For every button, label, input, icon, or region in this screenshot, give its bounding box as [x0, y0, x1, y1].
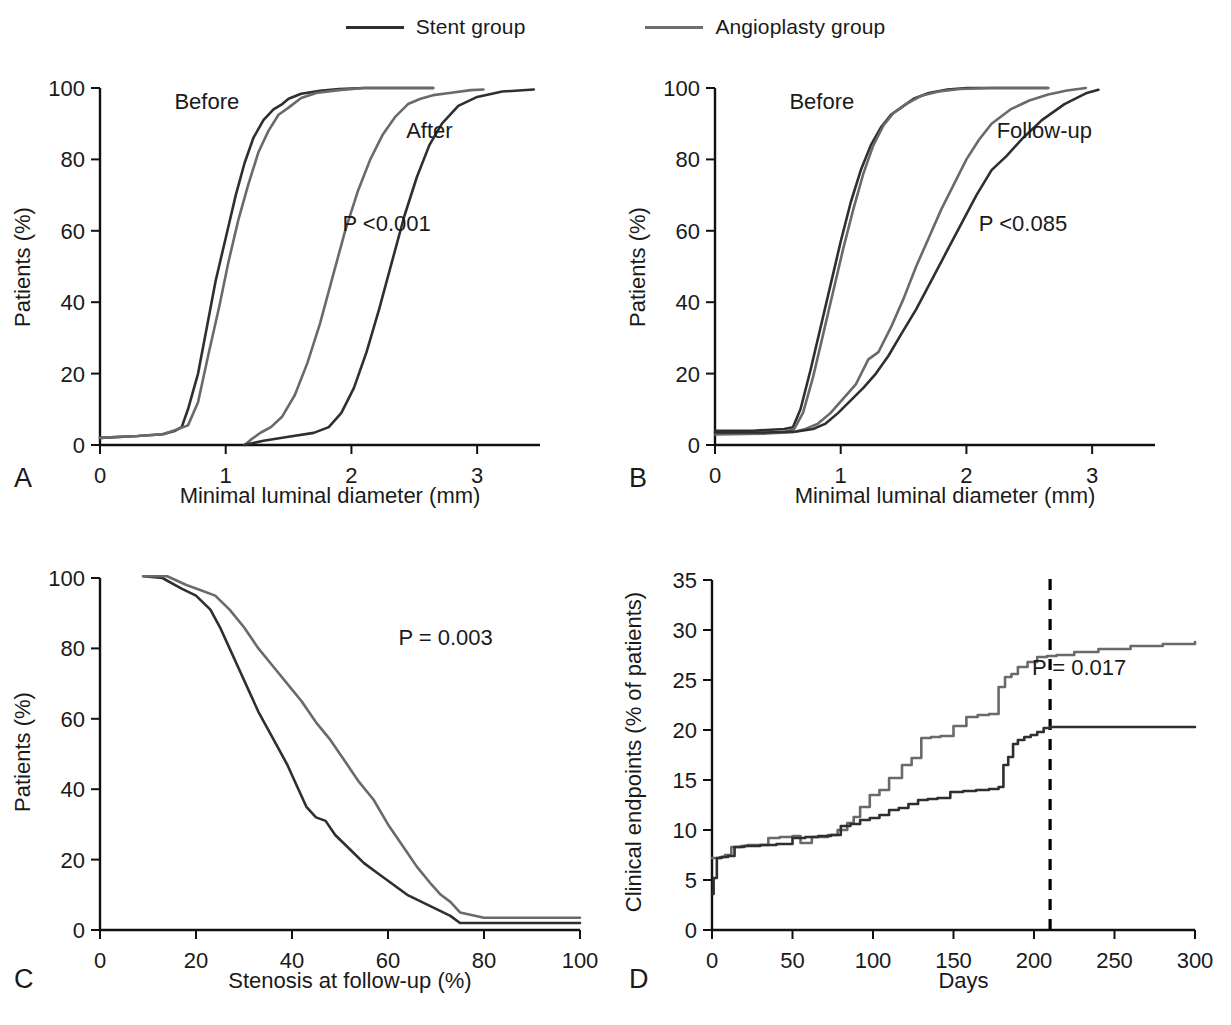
- y-tick-label: 100: [663, 76, 700, 101]
- y-tick-label: 0: [73, 918, 85, 943]
- x-tick-label: 300: [1177, 948, 1214, 973]
- y-tick-label: 20: [676, 362, 700, 387]
- panel-b-plot: 0204060801000123Minimal luminal diameter…: [625, 76, 1155, 508]
- panel-a-letter: A: [14, 463, 32, 494]
- y-axis-label: Patients (%): [625, 207, 650, 327]
- y-tick-label: 35: [673, 568, 697, 593]
- x-tick-label: 0: [706, 948, 718, 973]
- panel-c: 020406080100020406080100Stenosis at foll…: [0, 540, 615, 1010]
- y-tick-label: 40: [676, 290, 700, 315]
- chart-annotation: Before: [174, 89, 239, 114]
- legend-entry-stent: Stent group: [346, 15, 526, 39]
- y-tick-label: 60: [61, 707, 85, 732]
- legend-label-angioplasty: Angioplasty group: [715, 15, 885, 39]
- chart-annotation: P = 0.017: [1032, 655, 1126, 680]
- figure-legend: Stent group Angioplasty group: [0, 8, 1231, 46]
- y-tick-label: 60: [676, 219, 700, 244]
- y-tick-label: 25: [673, 668, 697, 693]
- chart-annotation: Before: [789, 89, 854, 114]
- figure-container: Stent group Angioplasty group 0204060801…: [0, 0, 1231, 1025]
- x-tick-label: 50: [780, 948, 804, 973]
- y-tick-label: 15: [673, 768, 697, 793]
- y-tick-label: 40: [61, 290, 85, 315]
- chart-annotation: P <0.085: [979, 211, 1067, 236]
- x-axis-label: Minimal luminal diameter (mm): [795, 483, 1096, 508]
- data-curve: [712, 727, 1195, 894]
- y-tick-label: 0: [73, 433, 85, 458]
- chart-annotation: Follow-up: [997, 118, 1092, 143]
- x-tick-label: 80: [472, 948, 496, 973]
- y-tick-label: 5: [685, 868, 697, 893]
- x-tick-label: 0: [94, 463, 106, 488]
- x-tick-label: 250: [1096, 948, 1133, 973]
- legend-label-stent: Stent group: [416, 15, 526, 39]
- y-tick-label: 100: [48, 76, 85, 101]
- chart-annotation: P <0.001: [342, 211, 430, 236]
- data-curve: [100, 88, 433, 438]
- y-tick-label: 0: [688, 433, 700, 458]
- chart-annotation: P = 0.003: [398, 625, 492, 650]
- y-axis-label: Clinical endpoints (% of patients): [621, 592, 646, 912]
- panel-d-chart: 05101520253035050100150200250300DaysClin…: [615, 540, 1231, 1010]
- x-axis-label: Days: [938, 968, 988, 993]
- y-tick-label: 100: [48, 566, 85, 591]
- panel-b-chart: 0204060801000123Minimal luminal diameter…: [615, 55, 1231, 515]
- x-tick-label: 20: [184, 948, 208, 973]
- y-tick-label: 20: [673, 718, 697, 743]
- panel-a-plot: 0204060801000123Minimal luminal diameter…: [10, 76, 540, 508]
- chart-annotation: After: [406, 118, 452, 143]
- x-axis-label: Minimal luminal diameter (mm): [180, 483, 481, 508]
- panel-a: 0204060801000123Minimal luminal diameter…: [0, 55, 615, 515]
- panel-a-chart: 0204060801000123Minimal luminal diameter…: [0, 55, 615, 515]
- data-curve: [245, 89, 534, 445]
- y-axis-label: Patients (%): [10, 207, 35, 327]
- y-tick-label: 20: [61, 362, 85, 387]
- y-tick-label: 10: [673, 818, 697, 843]
- panel-c-plot: 020406080100020406080100Stenosis at foll…: [10, 566, 598, 993]
- x-tick-label: 0: [94, 948, 106, 973]
- y-tick-label: 30: [673, 618, 697, 643]
- x-tick-label: 200: [1016, 948, 1053, 973]
- x-axis-label: Stenosis at follow-up (%): [228, 968, 471, 993]
- panel-d: 05101520253035050100150200250300DaysClin…: [615, 540, 1231, 1010]
- y-tick-label: 80: [61, 147, 85, 172]
- legend-line-angioplasty-icon: [645, 26, 703, 29]
- y-tick-label: 80: [676, 147, 700, 172]
- x-tick-label: 100: [562, 948, 599, 973]
- panel-c-letter: C: [14, 964, 34, 995]
- panel-c-chart: 020406080100020406080100Stenosis at foll…: [0, 540, 615, 1010]
- legend-entry-angioplasty: Angioplasty group: [645, 15, 885, 39]
- panel-d-plot: 05101520253035050100150200250300DaysClin…: [621, 568, 1213, 993]
- x-tick-label: 100: [855, 948, 892, 973]
- y-axis-label: Patients (%): [10, 692, 35, 812]
- panel-d-letter: D: [629, 964, 649, 995]
- y-tick-label: 40: [61, 777, 85, 802]
- legend-line-stent-icon: [346, 26, 404, 29]
- data-curve: [143, 576, 580, 917]
- panel-b-letter: B: [629, 463, 647, 494]
- y-tick-label: 0: [685, 918, 697, 943]
- x-tick-label: 0: [709, 463, 721, 488]
- y-tick-label: 60: [61, 219, 85, 244]
- data-curve: [100, 88, 433, 438]
- y-tick-label: 80: [61, 636, 85, 661]
- data-curve: [143, 576, 580, 923]
- y-tick-label: 20: [61, 848, 85, 873]
- panel-b: 0204060801000123Minimal luminal diameter…: [615, 55, 1231, 515]
